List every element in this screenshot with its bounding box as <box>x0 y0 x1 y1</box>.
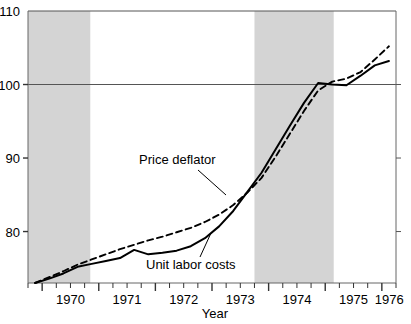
x-axis-title: Year <box>202 306 229 321</box>
annotation-leader-line <box>198 170 226 195</box>
x-tick-label: 1973 <box>226 292 255 307</box>
x-axis-ticks <box>28 283 396 291</box>
x-tick-label: 1976 <box>375 292 404 307</box>
y-axis-tick-labels: 8090100110 <box>0 4 20 240</box>
shaded-bands <box>28 11 334 283</box>
y-tick-label: 100 <box>0 78 20 93</box>
y-tick-label: 80 <box>6 225 20 240</box>
x-tick-label: 1974 <box>282 292 311 307</box>
x-tick-label: 1975 <box>339 292 368 307</box>
x-tick-label: 1971 <box>113 292 142 307</box>
y-tick-label: 110 <box>0 4 20 19</box>
y-tick-label: 90 <box>6 151 20 166</box>
x-axis-tick-labels: 1970197119721973197419751976 <box>56 292 404 307</box>
chart-figure: 8090100110 1970197119721973197419751976 … <box>0 0 411 324</box>
x-tick-label: 1972 <box>169 292 198 307</box>
x-tick-label: 1970 <box>56 292 85 307</box>
annotation-label: Price deflator <box>139 152 216 167</box>
shaded-band <box>28 11 90 283</box>
shaded-band <box>254 11 333 283</box>
chart-canvas: 8090100110 1970197119721973197419751976 … <box>0 0 411 324</box>
annotation-label: Unit labor costs <box>146 257 236 272</box>
